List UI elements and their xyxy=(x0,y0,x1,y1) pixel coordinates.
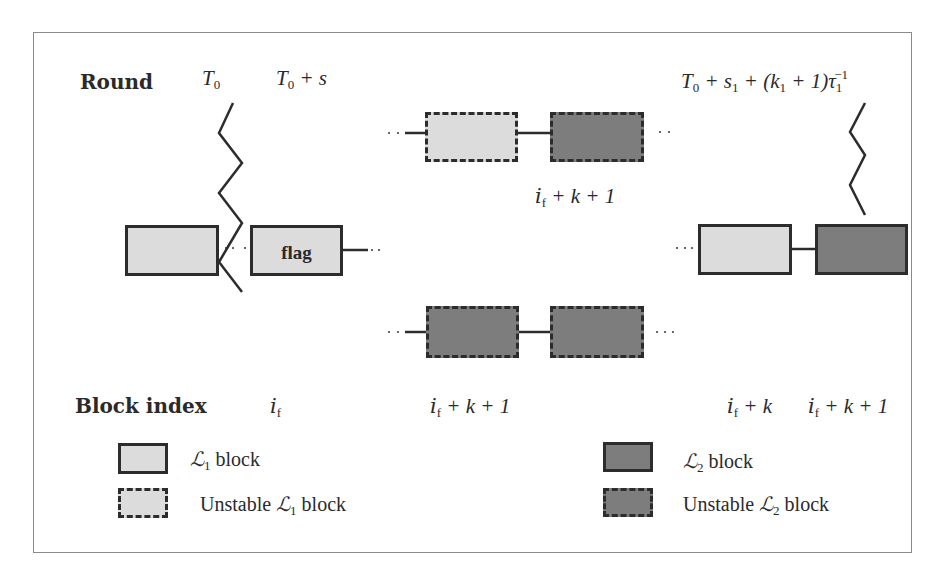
legend-swatch-unstable-l1 xyxy=(118,488,168,518)
unstable-l1-block-top xyxy=(425,112,518,162)
unstable-l2-block-bottom-b xyxy=(550,306,644,358)
flag-label: flag xyxy=(253,242,340,264)
index-label-top-branch: if + k + 1 xyxy=(535,186,615,209)
legend-label-unstable-l2: Unstable ℒ2 block xyxy=(683,494,829,517)
legend-label-l1: ℒ1 block xyxy=(190,449,260,472)
l2-block-right xyxy=(815,224,908,275)
legend-swatch-unstable-l2 xyxy=(603,488,653,517)
legend-swatch-l2 xyxy=(603,442,653,472)
l1-block-flag: flag xyxy=(250,225,343,276)
legend-swatch-l1 xyxy=(118,443,168,474)
index-label-right-l1: if + k xyxy=(727,396,772,419)
unstable-l2-block-top xyxy=(550,112,644,162)
index-label-right-l2: if + k + 1 xyxy=(808,396,888,419)
l1-block-right xyxy=(698,224,792,275)
legend-label-unstable-l1: Unstable ℒ1 block xyxy=(200,494,346,517)
zigzag-round-marker-t0 xyxy=(219,103,242,292)
index-label-if: if xyxy=(270,396,281,419)
zigzag-round-marker-t-end xyxy=(850,103,865,215)
unstable-l2-block-bottom-a xyxy=(426,306,519,358)
l1-block-if-minus xyxy=(125,225,219,276)
legend-label-l2: ℒ2 block xyxy=(683,451,753,474)
index-label-bottom-branch: if + k + 1 xyxy=(430,396,510,419)
